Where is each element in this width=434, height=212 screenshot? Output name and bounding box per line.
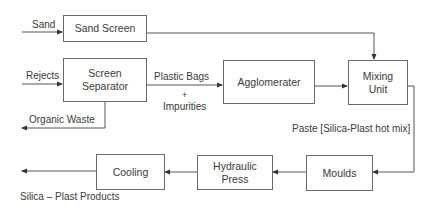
hydraulic-press-label-line2: Press — [222, 173, 249, 186]
sand-screen-box: Sand Screen — [63, 15, 147, 42]
screen-separator-box: Screen Separator — [63, 58, 147, 102]
organic-waste-label: Organic Waste — [29, 114, 95, 126]
hydraulic-press-box: Hydraulic Press — [197, 155, 273, 190]
paste-label: Paste [Silica-Plast hot mix] — [292, 123, 410, 135]
cooling-box: Cooling — [96, 154, 165, 190]
mixing-unit-label-line2: Unit — [369, 83, 388, 96]
sand-screen-label: Sand Screen — [75, 22, 136, 35]
mixing-unit-box: Mixing Unit — [348, 60, 408, 105]
plus-label: + — [182, 89, 187, 101]
rejects-input-label: Rejects — [26, 70, 59, 82]
impurities-label: Impurities — [163, 101, 206, 113]
hydraulic-press-label-line1: Hydraulic — [213, 160, 257, 173]
agglomerater-box: Agglomerater — [223, 60, 315, 104]
moulds-label: Moulds — [323, 167, 357, 180]
moulds-box: Moulds — [306, 155, 373, 191]
products-label: Silica – Plast Products — [20, 191, 120, 203]
screen-separator-label-line1: Screen — [88, 67, 121, 80]
mixing-unit-label-line1: Mixing — [363, 70, 393, 83]
plastic-bags-label: Plastic Bags — [154, 71, 209, 83]
sand-screen-to-mixing-arrow — [147, 33, 374, 59]
sand-input-label: Sand — [32, 19, 55, 31]
screen-separator-label-line2: Separator — [82, 80, 128, 93]
cooling-label: Cooling — [113, 166, 149, 179]
agglomerater-label: Agglomerater — [237, 76, 300, 89]
